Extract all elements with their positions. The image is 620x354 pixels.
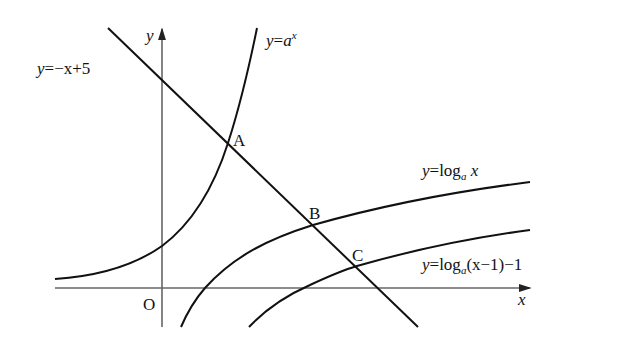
x-axis-label: x: [518, 291, 526, 308]
graph-canvas: [0, 0, 620, 354]
line-equation-label: y=−x+5: [37, 60, 90, 77]
log-equation-label: y=loga x: [422, 162, 478, 182]
line-curve: [108, 28, 418, 327]
point-b-label: B: [309, 205, 320, 222]
point-c-label: C: [352, 247, 363, 264]
y-axis-label: y: [146, 27, 154, 44]
shifted-log-equation-label: y=loga(x−1)−1: [422, 256, 522, 276]
origin-label: O: [143, 296, 155, 313]
shifted-log-curve: [249, 230, 530, 327]
exponential-equation-label: y=ax: [266, 30, 297, 49]
point-a-label: A: [233, 132, 245, 149]
graph-diagram: y x O y=−x+5 y=ax y=loga x y=loga(x−1)−1…: [0, 0, 620, 354]
